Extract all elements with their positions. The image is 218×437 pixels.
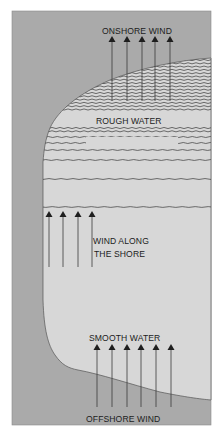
label-onshore-wind: ONSHORE WIND <box>102 26 172 36</box>
label-smooth-water: SMOOTH WATER <box>89 333 160 343</box>
label-rough-water: ROUGH WATER <box>96 116 162 126</box>
label-wind-along-2: THE SHORE <box>94 249 145 259</box>
label-wind-along-1: WIND ALONG <box>93 236 149 246</box>
label-offshore-wind: OFFSHORE WIND <box>86 414 160 424</box>
wind-water-diagram: ONSHORE WIND ROUGH WATER WIND ALONG THE … <box>0 0 218 437</box>
